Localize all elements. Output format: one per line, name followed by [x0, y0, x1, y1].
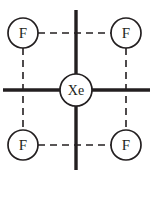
atom-label-fluorine-bottom-right: F: [122, 137, 130, 153]
atom-fluorine-bottom-right: F: [111, 130, 141, 160]
atom-label-fluorine-bottom-left: F: [19, 137, 27, 153]
molecule-diagram: F F F F Xe: [0, 0, 153, 208]
atom-label-fluorine-top-right: F: [122, 25, 130, 41]
atom-xenon-center: Xe: [60, 74, 92, 106]
atom-label-xenon: Xe: [68, 83, 84, 98]
molecular-structure-figure: F F F F Xe: [0, 0, 153, 208]
atom-fluorine-top-left: F: [8, 18, 38, 48]
atom-fluorine-top-right: F: [111, 18, 141, 48]
atom-label-fluorine-top-left: F: [19, 25, 27, 41]
atom-fluorine-bottom-left: F: [8, 130, 38, 160]
